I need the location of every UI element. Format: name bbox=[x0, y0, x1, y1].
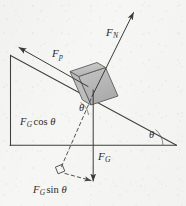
gravity-sin-angle: θ bbox=[61, 184, 66, 195]
parallel-force-label: Fp bbox=[52, 48, 63, 61]
gravity-sin-function: sin bbox=[45, 184, 59, 195]
angle-theta-at-block-label: θ bbox=[79, 103, 84, 114]
inclined-plane-diagram bbox=[0, 0, 186, 206]
gravity-force-subscript: G bbox=[105, 155, 111, 164]
gravity-sin-component-label: FGsin θ bbox=[33, 185, 67, 196]
normal-force-subscript: N bbox=[113, 31, 118, 40]
right-angle-marker bbox=[55, 164, 64, 173]
gravity-force-label: FG bbox=[98, 151, 111, 164]
block-on-incline bbox=[70, 63, 118, 106]
gravity-cos-function: cos bbox=[32, 116, 48, 127]
physics-diagram-figure: FN Fp FG FGcos θ FGsin θ θ θ bbox=[0, 0, 186, 206]
parallel-force-subscript: p bbox=[59, 52, 63, 61]
gravity-cos-angle: θ bbox=[50, 116, 55, 127]
normal-force-symbol: F bbox=[106, 26, 113, 38]
parallel-force-symbol: F bbox=[52, 47, 59, 59]
gravity-cos-component-label: FGcos θ bbox=[20, 117, 55, 128]
normal-force-label: FN bbox=[106, 27, 118, 40]
gravity-force-symbol: F bbox=[98, 150, 105, 162]
angle-theta-at-base-label: θ bbox=[149, 130, 154, 141]
gravity-sin-component-line bbox=[65, 174, 91, 181]
